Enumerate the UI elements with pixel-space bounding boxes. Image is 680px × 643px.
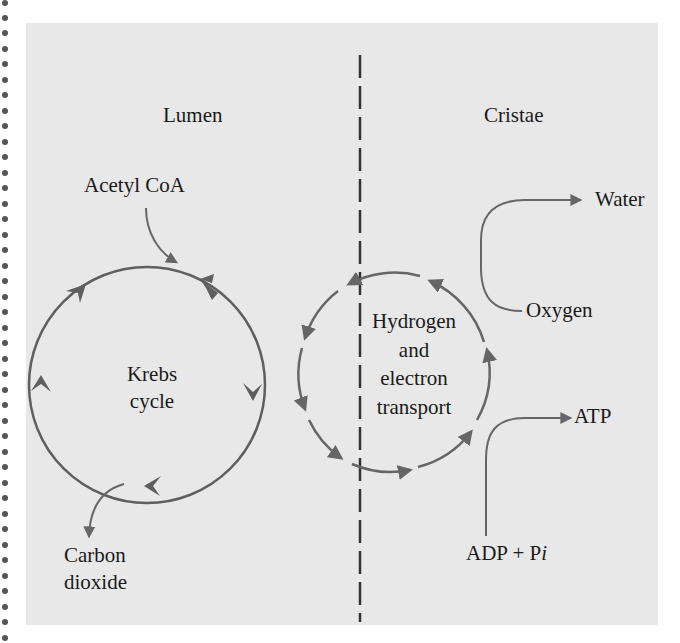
label-atp: ATP bbox=[574, 403, 611, 430]
et-line4: transport bbox=[358, 393, 470, 422]
et-line1: Hydrogen bbox=[358, 307, 470, 336]
krebs-label-line1: Krebs bbox=[107, 361, 197, 388]
krebs-label-line2: cycle bbox=[107, 388, 197, 415]
adp-atp-arrow bbox=[486, 418, 570, 536]
region-label-cristae: Cristae bbox=[484, 102, 543, 129]
region-label-lumen: Lumen bbox=[163, 102, 222, 129]
et-line3: electron bbox=[358, 364, 470, 393]
acetyl-coa-arrow bbox=[146, 208, 176, 262]
et-line2: and bbox=[358, 336, 470, 365]
adp-pi-italic: i bbox=[541, 541, 547, 565]
label-carbon-dioxide: Carbon dioxide bbox=[64, 542, 127, 596]
electron-transport-label: Hydrogen and electron transport bbox=[358, 307, 470, 421]
carbon-dioxide-line1: Carbon bbox=[64, 542, 127, 569]
krebs-cycle-label: Krebs cycle bbox=[107, 361, 197, 415]
carbon-dioxide-line2: dioxide bbox=[64, 569, 127, 596]
label-adp-pi: ADP + Pi bbox=[466, 540, 547, 567]
label-oxygen: Oxygen bbox=[526, 297, 593, 324]
adp-pi-main: ADP + P bbox=[466, 541, 541, 565]
label-water: Water bbox=[595, 186, 645, 213]
label-acetyl-coa: Acetyl CoA bbox=[84, 172, 185, 199]
oxygen-water-arrow bbox=[481, 200, 580, 311]
